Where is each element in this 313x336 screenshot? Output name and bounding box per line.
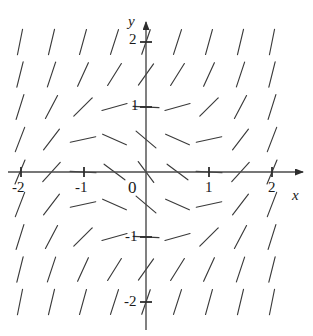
- slope-segment: [165, 103, 190, 110]
- slope-segment: [78, 63, 89, 87]
- x-tick-label: 2: [268, 180, 276, 195]
- slope-segment: [74, 228, 92, 246]
- slope-segment: [16, 225, 24, 250]
- origin-tick-label: 0: [128, 179, 137, 196]
- slope-segment: [165, 233, 190, 240]
- slope-segment: [171, 258, 185, 280]
- slope-segment: [206, 289, 213, 314]
- slope-segment: [111, 30, 119, 55]
- slope-segment: [74, 98, 92, 116]
- slope-segment: [196, 202, 221, 208]
- slope-segment: [70, 202, 95, 208]
- slope-segment: [269, 289, 274, 315]
- slope-segment: [200, 98, 218, 116]
- slope-field-figure: y x 0 -2-112 21-1-2: [0, 0, 313, 336]
- slope-segment: [233, 129, 249, 150]
- slope-segment: [48, 289, 54, 314]
- slope-segment: [111, 290, 119, 315]
- y-tick-label: 1: [131, 98, 139, 113]
- slope-segment: [171, 63, 185, 85]
- x-tick-label: -1: [75, 180, 88, 195]
- y-tick-label: 2: [129, 32, 137, 47]
- slope-segment: [174, 290, 182, 315]
- x-tick-label: -2: [12, 180, 25, 195]
- slope-field-canvas: [0, 0, 313, 336]
- slope-segment: [204, 258, 215, 282]
- slope-segment: [44, 194, 60, 215]
- slope-segment: [47, 257, 55, 282]
- slope-segment: [70, 137, 95, 143]
- slope-segment: [108, 258, 122, 280]
- slope-segment: [45, 96, 57, 119]
- slope-segment: [80, 29, 87, 54]
- slope-segment: [269, 29, 274, 55]
- slope-segment: [234, 96, 246, 119]
- slope-segment: [267, 127, 276, 151]
- slope-segment: [103, 199, 127, 210]
- slope-segment: [108, 63, 122, 85]
- slope-segment: [204, 63, 215, 87]
- y-axis-label: y: [128, 14, 135, 29]
- slope-segment: [17, 29, 22, 55]
- slope-segment: [268, 225, 276, 250]
- slope-segment: [47, 62, 55, 87]
- slope-segment: [102, 233, 127, 240]
- slope-segment: [196, 137, 221, 143]
- slope-segment: [17, 257, 23, 282]
- slope-segment: [16, 95, 24, 120]
- slope-segment: [17, 62, 23, 87]
- slope-segment: [200, 228, 218, 246]
- y-tick-label: -1: [125, 229, 138, 244]
- slope-segment: [268, 95, 276, 120]
- slope-segment: [237, 289, 243, 314]
- slope-segment: [44, 129, 60, 150]
- slope-segment: [233, 194, 249, 215]
- slope-segment: [174, 30, 182, 55]
- slope-segment: [80, 289, 87, 314]
- slope-segment: [269, 257, 275, 282]
- x-tick-label: 1: [205, 180, 213, 195]
- slope-segment: [206, 29, 213, 54]
- slope-segment: [166, 199, 190, 210]
- slope-segment: [267, 192, 276, 216]
- x-axis-label: x: [292, 188, 299, 203]
- y-tick-label: -2: [124, 294, 137, 309]
- slope-segment: [236, 257, 244, 282]
- slope-segment: [15, 192, 24, 216]
- slope-segment: [269, 62, 275, 87]
- axis-lines: [8, 22, 303, 330]
- slope-segment: [17, 289, 22, 315]
- slope-segment: [237, 29, 243, 54]
- slope-segment: [102, 103, 127, 110]
- slope-segment: [166, 134, 190, 145]
- slope-segment: [45, 226, 57, 249]
- slope-segment: [103, 134, 127, 145]
- slope-segment: [78, 258, 89, 282]
- slope-segment: [15, 127, 24, 151]
- slope-segment: [236, 62, 244, 87]
- slope-segment: [234, 226, 246, 249]
- slope-segment: [48, 29, 54, 54]
